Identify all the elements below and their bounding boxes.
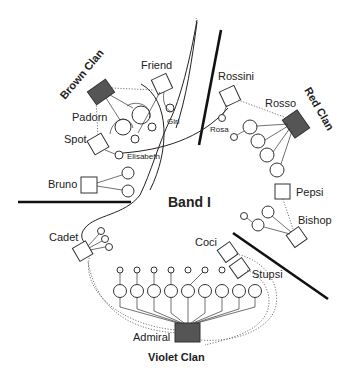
clan-label-violet: Violet Clan [148, 351, 205, 363]
tie-stupsi-admiral [205, 270, 269, 345]
leader-padorn-symbol [87, 79, 114, 105]
female-violet-3 [148, 285, 161, 298]
offspring-violet-3 [151, 267, 157, 273]
offspring-violet-1 [117, 267, 123, 273]
male-bruno-symbol [81, 177, 97, 193]
female-violet-4 [165, 285, 178, 298]
offspring-violet-4 [168, 267, 174, 273]
label-rossini: Rossini [218, 70, 254, 82]
band-diagram: : Brown Clan Padorn Friend Spot Girl Eli… [0, 0, 349, 375]
offspring-violet-5 [185, 267, 191, 273]
female-bruno-1 [122, 167, 134, 179]
tie-bruno-female-2 [97, 186, 122, 190]
label-pepsi: Pepsi [296, 186, 324, 198]
male-pepsi-symbol [275, 184, 290, 199]
travel-curve-arc [141, 84, 164, 190]
label-friend: Friend [141, 59, 172, 71]
male-spot-symbol [87, 133, 109, 155]
male-bishop-symbol [286, 227, 307, 248]
label-girl: Girl [167, 117, 180, 126]
male-friend-symbol [151, 73, 172, 94]
female-violet-7 [216, 285, 229, 298]
leader-admiral-symbol [175, 323, 200, 342]
offspring-cadet-3 [106, 244, 113, 251]
offspring-violet-2 [134, 267, 140, 273]
label-padorn: Padorn [72, 111, 107, 123]
tie-pepsi-bishop [283, 199, 293, 229]
female-red-1 [243, 120, 257, 134]
tie-spot-elisabeth [105, 150, 115, 154]
female-violet-1 [114, 285, 127, 298]
tie-cadet-2 [89, 241, 102, 248]
offspring-brown-1 [148, 123, 156, 131]
label-stupsi: Stupsi [252, 268, 283, 280]
female-red-2 [251, 134, 265, 148]
female-red-4 [270, 163, 284, 177]
offspring-brown-2 [131, 135, 139, 143]
female-violet-5 [182, 285, 195, 298]
offspring-rosa [219, 115, 226, 122]
tie-rosso-female-2 [265, 126, 288, 140]
tie-bishop-offspring [247, 218, 252, 222]
tie-rosso-female-3 [273, 128, 290, 152]
label-bruno: Bruno [48, 178, 77, 190]
label-bishop: Bishop [298, 214, 332, 226]
curve-end-mark: : [195, 15, 197, 24]
tie-rosso-female-1 [257, 124, 288, 126]
offspring-cadet-2 [102, 236, 109, 243]
label-cadet: Cadet [49, 231, 78, 243]
male-coci-symbol [217, 242, 238, 263]
female-bishop-2 [252, 219, 264, 231]
tie-cadet-3 [90, 247, 105, 250]
offspring-cadet-1 [98, 228, 105, 235]
female-violet-8 [233, 285, 246, 298]
tie-padorn-female-2 [106, 98, 120, 120]
label-coci: Coci [195, 236, 217, 248]
label-spot: Spot [64, 133, 87, 145]
male-stupsi-symbol [229, 258, 250, 279]
female-red-3 [260, 148, 274, 162]
female-violet-2 [131, 285, 144, 298]
offspring-violet-7 [219, 267, 225, 273]
offspring-bishop [241, 213, 248, 220]
tie-red-offspring [237, 131, 244, 135]
tie-bruno-female-1 [97, 175, 122, 183]
male-rossini-symbol [219, 85, 240, 106]
label-rosso: Rosso [265, 97, 296, 109]
label-admiral: Admiral [133, 331, 170, 343]
tie-rosso-female-4 [281, 131, 292, 164]
female-bruno-2 [122, 185, 134, 197]
female-violet-9 [249, 285, 262, 298]
band-title: Band I [168, 194, 211, 210]
tie-padorn-female-1 [110, 95, 133, 108]
offspring-red-1 [231, 134, 238, 141]
offspring-elisabeth [115, 151, 123, 159]
label-elisabeth: Elisabeth [127, 152, 160, 161]
female-violet-6 [199, 285, 212, 298]
label-rosa: Rosa [210, 125, 229, 134]
tie-cadet-1 [88, 234, 99, 246]
